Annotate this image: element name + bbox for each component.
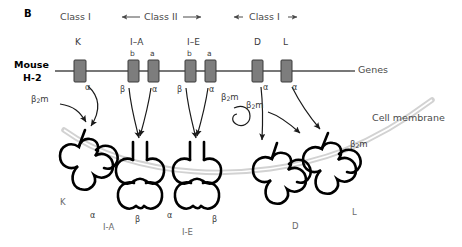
- chain-annotation-I-A-alpha: α: [152, 86, 157, 94]
- cell-membrane-label: Cell membrane: [372, 113, 445, 123]
- diagram-canvas: [0, 0, 462, 247]
- gene-label-L: L: [283, 38, 288, 47]
- protein-label-I-A: I-A: [103, 223, 114, 232]
- protein-label-L: L: [352, 208, 357, 217]
- protein-I-A: [116, 142, 164, 209]
- protein-I-E: [173, 142, 221, 209]
- b2m-label-L: β2m: [350, 140, 368, 149]
- organism-line-1: Mouse: [14, 60, 49, 70]
- subunit-label-I-A-a: a: [150, 50, 155, 58]
- chain-annotation-D-alpha: α: [263, 84, 268, 92]
- gene-box-I-E-b: [185, 60, 196, 82]
- protein-chain-I-A-beta: β: [135, 216, 140, 224]
- chain-annotation-I-E-beta: β: [177, 86, 182, 94]
- protein-chain-I-E-beta: β: [212, 216, 217, 224]
- gene-box-D: [252, 60, 263, 82]
- protein-label-D: D: [292, 222, 299, 231]
- figure-panel-b: B Class I Class II Class I K I–A I–E D L…: [0, 0, 462, 247]
- b2m-label-D: β2m: [246, 101, 264, 110]
- gene-label-K: K: [75, 38, 81, 47]
- protein-chain-I-A-alpha: α: [90, 212, 95, 220]
- expression-arrows: [60, 86, 320, 140]
- protein-D: [253, 143, 311, 204]
- chain-annotation-K-alpha: α: [85, 84, 90, 92]
- b2m-suffix: m: [230, 92, 238, 102]
- gene-box-I-A-a: [148, 60, 159, 82]
- panel-letter: B: [24, 9, 32, 19]
- chain-annotation-I-A-beta: β: [120, 86, 125, 94]
- gene-box-I-A-b: [128, 60, 139, 82]
- gene-box-I-E-a: [205, 60, 216, 82]
- subunit-label-I-E-a: a: [207, 50, 212, 58]
- b2m-suffix: m: [40, 94, 48, 104]
- gene-label-I-E: I–E: [187, 38, 200, 47]
- gene-box-L: [281, 60, 292, 82]
- protein-label-K: K: [60, 198, 66, 207]
- protein-K: [60, 130, 118, 190]
- b2m-suffix: m: [359, 139, 367, 149]
- gene-box-K: [74, 60, 86, 82]
- gene-label-D: D: [254, 38, 261, 47]
- genes-label: Genes: [358, 65, 388, 75]
- protein-label-I-E: I-E: [182, 228, 193, 237]
- subunit-label-I-E-b: b: [187, 50, 192, 58]
- chain-annotation-L-alpha: α: [292, 84, 297, 92]
- gene-label-I-A: I–A: [130, 38, 143, 47]
- organism-line-2: H-2: [23, 73, 42, 83]
- b2m-label-K: β2m: [31, 95, 49, 104]
- protein-chain-I-E-alpha: α: [167, 212, 172, 220]
- subunit-label-I-A-b: b: [130, 50, 135, 58]
- class-header-3: Class I: [249, 12, 280, 22]
- chain-annotation-I-E-alpha: α: [209, 86, 214, 94]
- b2m-label-mid: β2m: [221, 93, 239, 102]
- class-header-2: Class II: [144, 12, 178, 22]
- b2m-suffix: m: [255, 100, 263, 110]
- class-header-1: Class I: [60, 12, 91, 22]
